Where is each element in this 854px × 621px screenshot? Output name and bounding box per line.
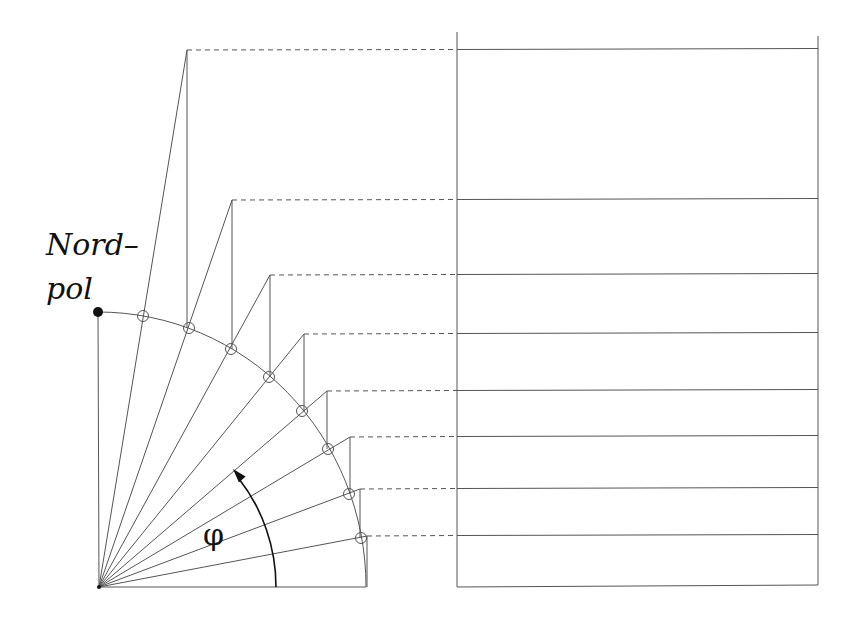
strip-line	[457, 488, 818, 489]
angle-phi-label: φ	[203, 520, 224, 550]
vertical-projection-lines	[187, 50, 367, 587]
latitude-markers	[138, 311, 367, 544]
spoke-line	[99, 437, 350, 587]
latitude-marker-circle	[297, 406, 308, 417]
strip-bottom-edge	[457, 585, 818, 587]
polar-axis	[98, 312, 99, 587]
projection-strip	[457, 32, 818, 587]
north-pole-dot	[93, 307, 103, 317]
angle-arrowhead-icon	[233, 469, 246, 483]
nordpol-label-line2: pol	[46, 274, 93, 304]
dashed-guide	[360, 489, 457, 490]
dashed-guide	[304, 334, 457, 335]
strip-line	[457, 274, 818, 275]
origin-point	[97, 585, 101, 589]
dashed-guide	[232, 200, 457, 201]
dashed-guide	[367, 536, 457, 537]
strip-line	[457, 49, 818, 50]
spokes	[99, 50, 367, 587]
dashed-guides	[187, 50, 457, 537]
strip-line	[457, 390, 818, 391]
strip-line	[457, 535, 818, 536]
spoke-line	[99, 334, 304, 587]
meridian-arc	[98, 312, 366, 587]
strip-line	[457, 333, 818, 334]
nordpol-label-line1: Nord–	[46, 230, 139, 260]
dashed-guide	[327, 391, 457, 392]
mercator-projection-diagram	[0, 0, 854, 621]
dashed-guide	[350, 437, 457, 438]
strip-line	[457, 199, 818, 200]
dashed-guide	[270, 275, 457, 276]
dashed-guide	[187, 50, 457, 51]
strip-line	[457, 436, 818, 437]
spoke-line	[99, 536, 367, 587]
